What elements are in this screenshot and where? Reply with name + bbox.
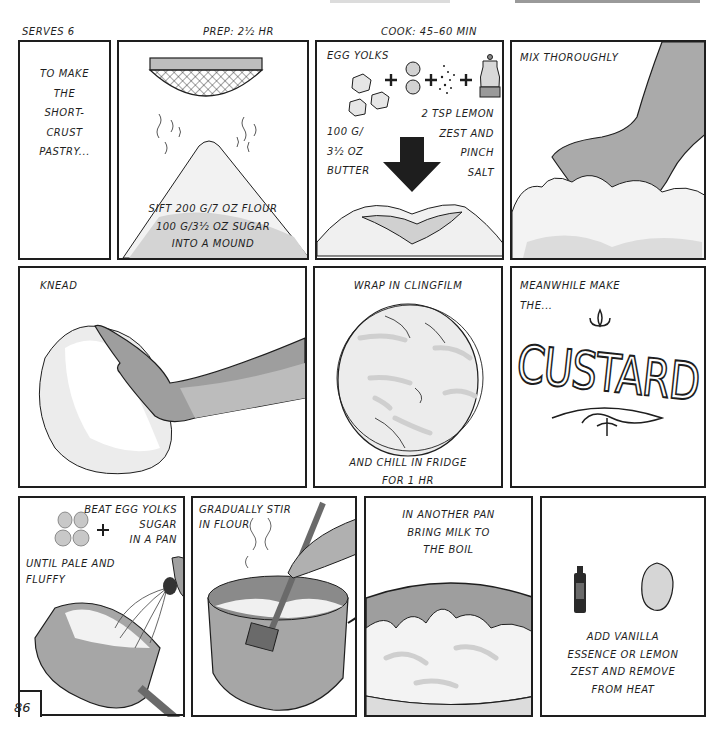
flavour-line: ESSENCE OR LEMON bbox=[542, 646, 704, 664]
beat-line: IN A PAN bbox=[84, 532, 177, 547]
flavour-line: FROM HEAT bbox=[542, 681, 704, 699]
serves-label: SERVES 6 bbox=[22, 24, 75, 40]
lemon-line: ZEST AND bbox=[421, 124, 494, 144]
top-edge-strip-right bbox=[515, 0, 700, 3]
egg-yolk-icon bbox=[406, 62, 420, 76]
page-number: 86 bbox=[14, 700, 31, 715]
pale-line: UNTIL PALE AND bbox=[26, 556, 115, 572]
cook-time-label: COOK: 45–60 MIN bbox=[381, 24, 477, 40]
top-edge-strip-left bbox=[330, 0, 450, 3]
vanilla-bottle-icon bbox=[574, 566, 586, 613]
salt-mill-icon bbox=[480, 55, 500, 98]
stir-line: IN FLOUR bbox=[199, 517, 291, 532]
panel-beat-notch-edge bbox=[40, 690, 42, 717]
panel-boil: IN ANOTHER PAN BRING MILK TO THE BOIL bbox=[364, 496, 533, 717]
prep-time-label: PREP: 2½ HR bbox=[203, 24, 274, 40]
lemon-icon bbox=[642, 563, 673, 610]
panel-custard-intro: MEANWHILE MAKE THE... CUSTARD bbox=[510, 266, 706, 488]
intro-line: SHORT- bbox=[20, 103, 109, 123]
flavour-line: ZEST AND REMOVE bbox=[542, 663, 704, 681]
butter-line: BUTTER bbox=[327, 161, 370, 181]
panel-stir: GRADUALLY STIR IN FLOUR bbox=[191, 496, 357, 717]
panel-mix: MIX THOROUGHLY bbox=[510, 40, 706, 260]
panel-intro: TO MAKE THE SHORT- CRUST PASTRY... bbox=[18, 40, 111, 260]
sift-mound-line: INTO A MOUND bbox=[119, 235, 307, 253]
lemon-line: SALT bbox=[421, 163, 494, 183]
knead-label: KNEAD bbox=[40, 278, 77, 294]
boil-line: BRING MILK TO bbox=[366, 524, 531, 542]
stir-line: GRADUALLY STIR bbox=[199, 502, 291, 517]
panel-flavour: ADD VANILLA ESSENCE OR LEMON ZEST AND RE… bbox=[540, 496, 706, 717]
chill-line: AND CHILL IN FRIDGE bbox=[315, 454, 501, 472]
butter-cube-icon bbox=[352, 74, 371, 93]
panel-knead: KNEAD bbox=[18, 266, 307, 488]
boil-line: THE BOIL bbox=[366, 541, 531, 559]
boil-line: IN ANOTHER PAN bbox=[366, 506, 531, 524]
pale-line: FLUFFY bbox=[26, 572, 115, 588]
kneading-illustration bbox=[20, 268, 307, 488]
flavour-line: ADD VANILLA bbox=[542, 628, 704, 646]
mixing-hand-illustration bbox=[512, 42, 706, 260]
beat-line: SUGAR bbox=[84, 517, 177, 532]
panel-add-ingredients: EGG YOLKS 100 G/ 3½ OZ BUTTER 2 TSP LEMO… bbox=[315, 40, 504, 260]
wrap-label: WRAP IN CLINGFILM bbox=[315, 278, 501, 294]
panel-sift: SIFT 200 G/7 OZ FLOUR 100 G/3½ OZ SUGAR … bbox=[117, 40, 309, 260]
egg-yolks-label: EGG YOLKS bbox=[327, 48, 389, 64]
lemon-line: PINCH bbox=[421, 143, 494, 163]
beat-line: BEAT EGG YOLKS bbox=[84, 502, 177, 517]
sift-sugar-line: 100 G/3½ OZ SUGAR bbox=[119, 218, 307, 236]
panel-beat: BEAT EGG YOLKS SUGAR IN A PAN UNTIL PALE… bbox=[18, 496, 185, 717]
panel-beat-bottom-edge-right bbox=[40, 714, 185, 716]
sift-flour-line: SIFT 200 G/7 OZ FLOUR bbox=[119, 200, 307, 218]
intro-line: TO MAKE bbox=[20, 64, 109, 84]
intro-line: PASTRY... bbox=[20, 142, 109, 162]
butter-line: 100 G/ bbox=[327, 122, 370, 142]
intro-line: THE bbox=[20, 84, 109, 104]
butter-line: 3½ OZ bbox=[327, 142, 370, 162]
intro-line: CRUST bbox=[20, 123, 109, 143]
chill-line: FOR 1 HR bbox=[315, 472, 501, 489]
mix-label: MIX THOROUGHLY bbox=[520, 50, 618, 66]
lemon-line: 2 TSP LEMON bbox=[421, 104, 494, 124]
panel-wrap: WRAP IN CLINGFILM AND CHILL IN FRIDGE FO… bbox=[313, 266, 503, 488]
